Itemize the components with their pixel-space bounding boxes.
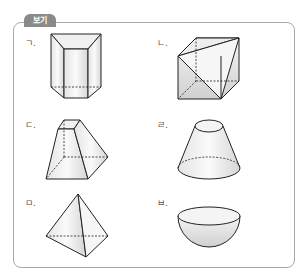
item-label-4: ㄹ. [157,118,168,131]
cube-with-diagonals-icon [176,36,242,100]
triangular-prism-icon [48,32,108,100]
item-label-5: ㅁ. [25,196,36,209]
hemisphere-icon [176,204,242,248]
item-label-6: ㅂ. [157,196,168,209]
item-label-1: ㄱ. [25,36,36,49]
item-label-2: ㄴ. [157,36,168,49]
example-tag: 보기 [24,14,56,27]
cone-frustum-icon [176,116,242,182]
square-frustum-icon [44,118,110,182]
item-label-3: ㄷ. [25,118,36,131]
triangular-pyramid-icon [44,192,110,260]
